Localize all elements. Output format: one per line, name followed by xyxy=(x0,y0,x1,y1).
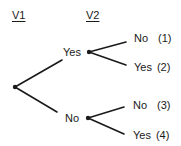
leaf-2: Yes(2) xyxy=(134,61,170,73)
header-v2: V2 xyxy=(86,9,99,21)
edge-no-no3 xyxy=(88,107,124,118)
header-v1: V1 xyxy=(12,9,25,21)
leaf-1-label: No xyxy=(134,32,148,44)
leaf-1: No(1) xyxy=(134,32,172,44)
leaf-4: Yes(4) xyxy=(133,129,169,141)
leaf-4-index: (4) xyxy=(156,129,169,141)
edge-root-no xyxy=(15,87,57,112)
label-v1-no: No xyxy=(65,112,79,124)
edge-no-yes4 xyxy=(88,118,124,134)
edge-yes-yes2 xyxy=(89,52,126,65)
leaf-1-index: (1) xyxy=(158,32,171,44)
leaf-3-index: (3) xyxy=(157,99,170,111)
node-no xyxy=(86,116,90,120)
root-node xyxy=(13,85,17,89)
tree-diagram xyxy=(0,0,181,146)
leaf-3-label: No xyxy=(133,99,147,111)
edge-root-yes xyxy=(15,60,62,87)
label-v1-yes: Yes xyxy=(63,46,81,58)
leaf-2-label: Yes xyxy=(134,61,152,73)
leaf-2-index: (2) xyxy=(157,61,170,73)
leaf-4-label: Yes xyxy=(133,129,151,141)
leaf-3: No(3) xyxy=(133,99,171,111)
edge-yes-no1 xyxy=(89,42,126,52)
node-yes xyxy=(87,50,91,54)
